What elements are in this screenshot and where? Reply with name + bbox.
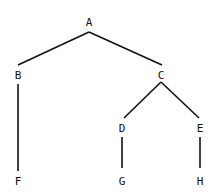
node-d: D: [119, 122, 126, 135]
tree-diagram: A B C D E F G H: [0, 0, 216, 192]
node-f: F: [15, 175, 22, 188]
node-b: B: [15, 69, 22, 82]
tree-diagram-svg: A B C D E F G H: [0, 0, 216, 192]
edge-a-b: [18, 32, 89, 65]
node-g: G: [119, 175, 126, 188]
node-h: H: [197, 175, 204, 188]
edge-a-c: [89, 32, 162, 65]
node-c: C: [158, 69, 165, 82]
edge-c-d: [124, 82, 161, 118]
node-e: E: [197, 122, 204, 135]
node-a: A: [86, 16, 93, 29]
tree-edges: [18, 32, 200, 171]
edge-c-e: [161, 82, 199, 118]
